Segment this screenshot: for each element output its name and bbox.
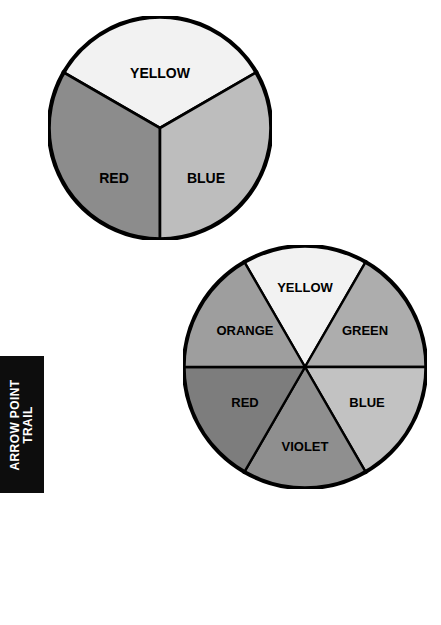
wheel2-label-yellow: YELLOW: [277, 280, 333, 295]
section-side-tab-label: ARROW POINTTRAIL: [9, 360, 35, 490]
wheel1-label-yellow: YELLOW: [130, 65, 191, 81]
color-wheel-primary-svg: YELLOW RED BLUE: [48, 16, 272, 240]
wheel2-label-blue: BLUE: [349, 395, 385, 410]
wheel2-label-violet: VIOLET: [282, 439, 329, 454]
color-wheel-secondary-svg: YELLOW GREEN BLUE VIOLET RED ORANGE: [183, 245, 427, 489]
wheel2-label-orange: ORANGE: [216, 323, 273, 338]
wheel1-label-red: RED: [99, 170, 129, 186]
page-canvas: YELLOW RED BLUE YELLOW GREEN BLUE VIOLET: [0, 0, 441, 625]
wheel1-label-blue: BLUE: [187, 170, 225, 186]
footer: c Akela's OK Date Recorded by den leader…: [0, 520, 441, 625]
color-wheel-secondary: YELLOW GREEN BLUE VIOLET RED ORANGE: [183, 245, 427, 489]
section-side-tab: ARROW POINTTRAIL: [0, 356, 44, 493]
color-wheel-primary: YELLOW RED BLUE: [48, 16, 272, 240]
wheel2-label-red: RED: [231, 395, 258, 410]
wheel2-label-green: GREEN: [342, 323, 388, 338]
